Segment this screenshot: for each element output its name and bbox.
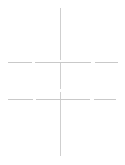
diagram-background (0, 0, 125, 165)
line-diagram (0, 0, 125, 165)
diagram-canvas (0, 0, 125, 165)
